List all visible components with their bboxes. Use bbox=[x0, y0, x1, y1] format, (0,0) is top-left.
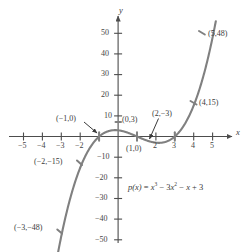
ytick-label-pos40: 40 bbox=[101, 50, 109, 58]
point-label-5-48: (5,48) bbox=[208, 30, 227, 38]
xtick-label-pos2: 2 bbox=[153, 142, 157, 150]
point-marker-5 bbox=[199, 31, 205, 35]
point-label-2-neg3: (2,−3) bbox=[152, 110, 172, 118]
ytick-label-neg20: −20 bbox=[95, 174, 108, 182]
xtick-label-neg5: −5 bbox=[18, 142, 27, 150]
ytick-label-neg30: −30 bbox=[95, 194, 108, 202]
point-label-neg1-0: (−1,0) bbox=[56, 115, 76, 123]
ytick-label-pos20: 20 bbox=[101, 91, 109, 99]
arrow-to-point2 bbox=[150, 119, 159, 140]
xtick-label-pos5: 5 bbox=[210, 142, 214, 150]
point-label-4-15: (4,15) bbox=[199, 99, 218, 107]
ytick-label-neg40: −40 bbox=[95, 215, 108, 223]
point-label-neg2-neg15: (−2,−15) bbox=[34, 158, 62, 166]
xtick-label-neg4: −4 bbox=[37, 142, 46, 150]
equation-term4: 3 bbox=[199, 182, 203, 192]
arrow-to-neg1 bbox=[84, 122, 97, 133]
point-label-1-0: (1,0) bbox=[126, 145, 141, 153]
ytick-label-neg10: −10 bbox=[97, 153, 110, 161]
point-label-0-3: (0,3) bbox=[122, 116, 137, 124]
marked-point-dashes bbox=[57, 31, 205, 234]
ytick-label-neg50: −50 bbox=[95, 236, 108, 244]
ytick-label-pos10: 10 bbox=[104, 112, 112, 120]
xtick-label-neg2: −2 bbox=[75, 142, 84, 150]
equation-expression: p(x) = x3 − 3x2 − x + 3 bbox=[128, 182, 203, 191]
xtick-label-neg3: −3 bbox=[56, 142, 65, 150]
x-axis-label: x bbox=[236, 128, 240, 137]
equation-lhs: p(x) bbox=[128, 182, 142, 192]
xtick-label-pos3: 3 bbox=[172, 142, 176, 150]
xtick-label-pos4: 4 bbox=[191, 142, 195, 150]
point-label-neg3-neg48: (−3,−48) bbox=[14, 224, 42, 232]
ytick-label-pos30: 30 bbox=[101, 70, 109, 78]
polynomial-graph-figure: −5 −4 −3 −2 2 3 4 5 50 40 30 20 10 −10 −… bbox=[0, 0, 249, 252]
ytick-label-pos50: 50 bbox=[101, 29, 109, 37]
x-axis bbox=[9, 133, 232, 141]
y-axis-label: y bbox=[119, 6, 123, 15]
